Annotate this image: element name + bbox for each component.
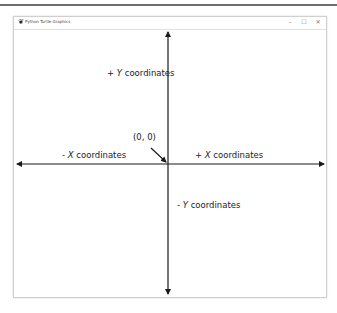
negative-x-label: - X coordinates xyxy=(62,150,126,160)
positive-x-label: + X coordinates xyxy=(195,150,263,160)
positive-y-label: + Y coordinates xyxy=(107,68,175,78)
origin-label: (0, 0) xyxy=(133,132,156,142)
origin-pointer-arrow xyxy=(151,148,166,162)
turtle-canvas xyxy=(0,0,337,313)
negative-y-label: - Y coordinates xyxy=(177,200,240,210)
